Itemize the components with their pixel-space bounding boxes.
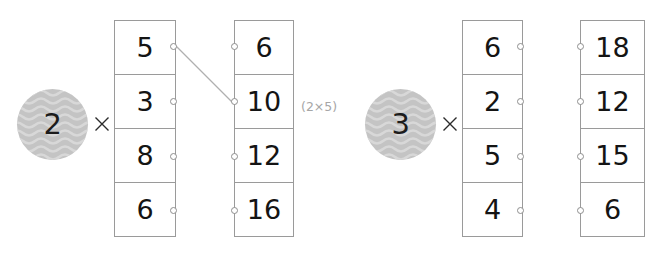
- table-row[interactable]: 6: [235, 21, 293, 75]
- multiplier-value-2: 3: [392, 110, 410, 139]
- port-input-1-row-3[interactable]: [170, 153, 177, 160]
- port-output-1-row-2[interactable]: [231, 98, 238, 105]
- table-row[interactable]: 6: [581, 183, 644, 236]
- multiplier-value-1: 2: [44, 110, 62, 139]
- times-operator-2: [441, 115, 459, 133]
- table-row[interactable]: 8: [115, 129, 175, 183]
- cell-value: 3: [136, 88, 153, 115]
- table-row[interactable]: 6: [115, 183, 175, 236]
- input-column-1: 5 3 8 6: [114, 20, 176, 237]
- cell-value: 2: [484, 88, 501, 115]
- cell-value: 10: [247, 88, 281, 115]
- cell-value: 6: [484, 34, 501, 61]
- table-row[interactable]: 18: [581, 21, 644, 75]
- port-output-2-row-3[interactable]: [577, 153, 584, 160]
- port-input-2-row-2[interactable]: [517, 98, 524, 105]
- cell-value: 5: [136, 34, 153, 61]
- cell-value: 12: [247, 142, 281, 169]
- diagram-canvas: 2 5 3 8 6 6 10 12: [0, 0, 663, 260]
- port-input-2-row-4[interactable]: [517, 207, 524, 214]
- table-row[interactable]: 5: [115, 21, 175, 75]
- table-row[interactable]: 12: [235, 129, 293, 183]
- table-row[interactable]: 4: [463, 183, 522, 236]
- times-operator-1: [93, 115, 111, 133]
- port-output-1-row-1[interactable]: [231, 43, 238, 50]
- cell-value: 8: [136, 142, 153, 169]
- port-output-2-row-2[interactable]: [577, 98, 584, 105]
- annotation-label-1: (2×5): [301, 99, 337, 114]
- port-output-2-row-4[interactable]: [577, 207, 584, 214]
- multiplier-token-1[interactable]: 2: [17, 89, 88, 160]
- cell-value: 18: [595, 34, 629, 61]
- table-row[interactable]: 6: [463, 21, 522, 75]
- cell-value: 16: [247, 196, 281, 223]
- input-column-2: 6 2 5 4: [462, 20, 523, 237]
- port-output-1-row-4[interactable]: [231, 207, 238, 214]
- table-row[interactable]: 2: [463, 75, 522, 129]
- table-row[interactable]: 5: [463, 129, 522, 183]
- output-column-2: 18 12 15 6: [580, 20, 645, 237]
- table-row[interactable]: 16: [235, 183, 293, 236]
- table-row[interactable]: 12: [581, 75, 644, 129]
- cell-value: 15: [595, 142, 629, 169]
- multiply-icon: [441, 115, 459, 133]
- port-output-2-row-1[interactable]: [577, 43, 584, 50]
- port-input-1-row-2[interactable]: [170, 98, 177, 105]
- output-column-1: 6 10 12 16: [234, 20, 294, 237]
- port-input-2-row-3[interactable]: [517, 153, 524, 160]
- port-output-1-row-3[interactable]: [231, 153, 238, 160]
- port-input-2-row-1[interactable]: [517, 43, 524, 50]
- cell-value: 6: [604, 196, 621, 223]
- port-input-1-row-1[interactable]: [170, 43, 177, 50]
- connector-wire-5-to-10[interactable]: [177, 47, 232, 102]
- cell-value: 4: [484, 196, 501, 223]
- table-row[interactable]: 3: [115, 75, 175, 129]
- cell-value: 6: [255, 34, 272, 61]
- table-row[interactable]: 10: [235, 75, 293, 129]
- cell-value: 12: [595, 88, 629, 115]
- multiplier-token-2[interactable]: 3: [365, 89, 436, 160]
- cell-value: 6: [136, 196, 153, 223]
- table-row[interactable]: 15: [581, 129, 644, 183]
- cell-value: 5: [484, 142, 501, 169]
- port-input-1-row-4[interactable]: [170, 207, 177, 214]
- multiply-icon: [93, 115, 111, 133]
